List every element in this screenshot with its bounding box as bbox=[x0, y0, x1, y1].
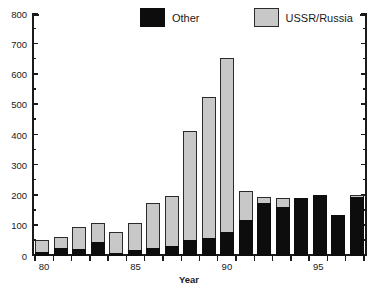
x-tick-label-80: 80 bbox=[39, 261, 50, 272]
bar-95 bbox=[313, 14, 327, 256]
bar-segment-other-97 bbox=[350, 197, 364, 256]
bar-segment-other-81 bbox=[54, 248, 68, 256]
y-tick-label-600: 600 bbox=[11, 70, 27, 80]
bar-series-group bbox=[32, 14, 367, 256]
bar-86 bbox=[146, 14, 160, 256]
x-tick-label-90: 90 bbox=[222, 261, 233, 272]
bar-96 bbox=[331, 14, 345, 256]
x-axis-title: Year bbox=[0, 274, 378, 285]
bar-segment-ussr-russia-85 bbox=[128, 223, 142, 250]
y-tick-label-800: 800 bbox=[11, 10, 27, 20]
x-tick-16 bbox=[327, 256, 328, 261]
x-tick-1 bbox=[53, 256, 54, 261]
bar-88 bbox=[183, 14, 197, 256]
x-tick-11 bbox=[235, 256, 236, 261]
x-tick-7 bbox=[162, 256, 163, 261]
bar-82 bbox=[72, 14, 86, 256]
y-tick-label-700: 700 bbox=[11, 40, 27, 50]
bar-segment-other-91 bbox=[239, 220, 253, 256]
y-tick-label-0: 0 bbox=[22, 252, 27, 262]
bar-93 bbox=[276, 14, 290, 256]
bar-segment-other-96 bbox=[331, 215, 345, 256]
x-tick-0 bbox=[34, 256, 35, 261]
bar-segment-ussr-russia-80 bbox=[35, 240, 49, 252]
bar-segment-other-92 bbox=[257, 203, 271, 256]
bar-92 bbox=[257, 14, 271, 256]
bar-segment-other-90 bbox=[220, 232, 234, 257]
bar-87 bbox=[165, 14, 179, 256]
bar-84 bbox=[109, 14, 123, 256]
bar-segment-ussr-russia-89 bbox=[202, 97, 216, 238]
bar-segment-ussr-russia-88 bbox=[183, 131, 197, 240]
bar-segment-other-88 bbox=[183, 240, 197, 256]
bar-83 bbox=[91, 14, 105, 256]
x-tick-6 bbox=[144, 256, 145, 261]
x-tick-3 bbox=[89, 256, 90, 261]
bar-segment-ussr-russia-93 bbox=[276, 198, 290, 206]
bar-segment-other-89 bbox=[202, 238, 216, 256]
x-tick-8 bbox=[181, 256, 182, 261]
x-tick-4 bbox=[107, 256, 108, 261]
bar-segment-ussr-russia-90 bbox=[220, 58, 234, 232]
y-tick-label-100: 100 bbox=[11, 221, 27, 231]
y-tick-label-500: 500 bbox=[11, 100, 27, 110]
x-tick-label-85: 85 bbox=[130, 261, 141, 272]
bar-segment-ussr-russia-83 bbox=[91, 223, 105, 242]
plot-area bbox=[32, 14, 367, 256]
x-tick-label-95: 95 bbox=[313, 261, 324, 272]
x-tick-17 bbox=[345, 256, 346, 261]
bar-81 bbox=[54, 14, 68, 256]
y-tick-label-200: 200 bbox=[11, 191, 27, 201]
x-tick-15 bbox=[308, 256, 309, 261]
bar-segment-ussr-russia-84 bbox=[109, 232, 123, 253]
bar-segment-other-87 bbox=[165, 246, 179, 256]
stacked-bar-chart: Other USSR/Russia 0100200300400500600700… bbox=[0, 0, 378, 289]
x-tick-2 bbox=[71, 256, 72, 261]
bar-segment-ussr-russia-81 bbox=[54, 237, 68, 248]
bar-89 bbox=[202, 14, 216, 256]
x-tick-5 bbox=[126, 256, 127, 261]
x-tick-12 bbox=[254, 256, 255, 261]
bar-segment-ussr-russia-91 bbox=[239, 191, 253, 221]
x-tick-18 bbox=[363, 256, 364, 261]
x-tick-13 bbox=[272, 256, 273, 261]
x-tick-9 bbox=[199, 256, 200, 261]
y-axis-labels: 0100200300400500600700800 bbox=[0, 14, 27, 256]
y-tick-label-300: 300 bbox=[11, 161, 27, 171]
bar-85 bbox=[128, 14, 142, 256]
bar-segment-other-93 bbox=[276, 207, 290, 256]
bar-94 bbox=[294, 14, 308, 256]
y-tick-label-400: 400 bbox=[11, 131, 27, 141]
bar-91 bbox=[239, 14, 253, 256]
bar-segment-other-95 bbox=[313, 195, 327, 256]
bar-segment-ussr-russia-86 bbox=[146, 203, 160, 248]
x-tick-10 bbox=[217, 256, 218, 261]
bar-80 bbox=[35, 14, 49, 256]
bar-90 bbox=[220, 14, 234, 256]
bar-segment-other-94 bbox=[294, 198, 308, 256]
x-axis-labels: 80859095 bbox=[32, 261, 367, 275]
bar-segment-other-82 bbox=[72, 249, 86, 256]
bar-segment-ussr-russia-87 bbox=[165, 196, 179, 247]
x-tick-14 bbox=[290, 256, 291, 261]
bar-segment-ussr-russia-82 bbox=[72, 227, 86, 250]
bar-segment-other-83 bbox=[91, 242, 105, 256]
bar-segment-other-86 bbox=[146, 248, 160, 256]
bar-97 bbox=[350, 14, 364, 256]
